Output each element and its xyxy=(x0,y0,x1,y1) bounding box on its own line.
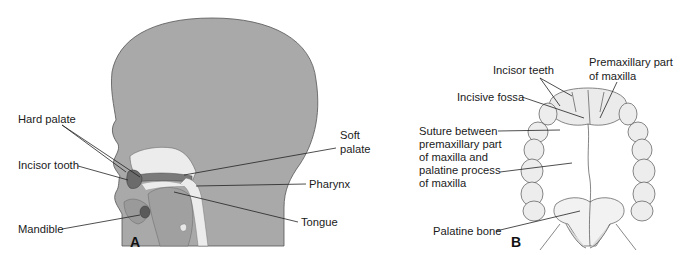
label-premaxillary-line1: Premaxillary part xyxy=(589,56,673,69)
label-suture-line1: Suture between xyxy=(419,125,497,138)
label-soft-palate-line2: palate xyxy=(340,143,370,156)
palatine-bone-shape xyxy=(554,198,624,246)
anatomy-figure: Hard palate Incisor tooth Mandible Soft … xyxy=(0,0,688,255)
label-mandible: Mandible xyxy=(18,223,63,236)
panel-b-letter: B xyxy=(511,234,521,250)
label-hard-palate: Hard palate xyxy=(18,113,76,126)
label-tongue: Tongue xyxy=(301,216,338,229)
label-soft-palate-line1: Soft xyxy=(340,129,360,142)
label-incisive-fossa: Incisive fossa xyxy=(457,91,524,104)
label-suture-line3: of maxilla and xyxy=(419,151,488,164)
label-palatine-bone: Palatine bone xyxy=(433,225,501,238)
label-pharynx: Pharynx xyxy=(309,178,350,191)
label-incisor-tooth: Incisor tooth xyxy=(18,159,79,172)
label-incisor-teeth: Incisor teeth xyxy=(493,64,554,77)
panel-a-letter: A xyxy=(130,234,140,250)
label-suture-line2: premaxillary part xyxy=(419,138,502,151)
label-premaxillary-line2: of maxilla xyxy=(589,70,636,83)
panel-b-palate-illustration xyxy=(0,0,688,255)
label-suture-line4: palatine process xyxy=(419,164,500,177)
label-suture-line5: of maxilla xyxy=(419,177,466,190)
